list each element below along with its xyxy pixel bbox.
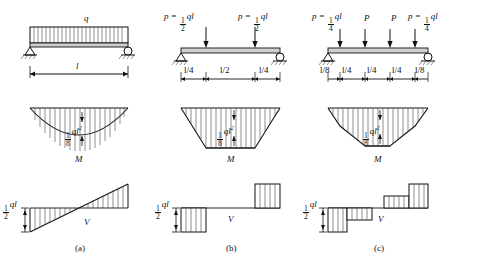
shear-peak-den-a: 2	[3, 212, 9, 221]
support-roller-a	[119, 47, 135, 59]
shear-svg-c	[308, 180, 478, 250]
shear-peak-den-c: 2	[303, 212, 309, 221]
diagram-column-c: p = 14ql P P p = 14ql	[308, 0, 478, 266]
support-pin-b	[172, 53, 188, 65]
shear-peak-label-c: 12ql	[302, 200, 317, 221]
shear-axis-label-c: V	[378, 215, 384, 224]
support-roller-c	[419, 53, 435, 65]
moment-peak-den-c: 8	[363, 139, 369, 148]
moment-peak-num-c: 1	[363, 132, 369, 140]
moment-peak-num-a: 1	[65, 132, 71, 140]
caption-a: (a)	[75, 243, 85, 253]
support-pin-a	[21, 47, 37, 59]
load-svg-a	[0, 0, 160, 90]
span-dimension-a	[30, 66, 128, 78]
moment-peak-unit-a: ql	[72, 126, 79, 136]
diagram-column-b: p = 12ql p = 12ql	[158, 0, 313, 266]
load-svg-c	[308, 0, 478, 90]
shear-peak-unit-a: ql	[10, 199, 17, 209]
dim-label-c-4: l/4	[392, 66, 402, 75]
load-arrow-b-1	[203, 27, 208, 48]
shear-peak-num-b: 1	[155, 205, 161, 213]
dim-label-c-1: l/8	[320, 66, 330, 75]
shear-peak-unit-c: ql	[310, 199, 317, 209]
dim-label-c-2: l/4	[342, 66, 352, 75]
load-arrow-c-3	[387, 29, 392, 48]
shear-peak-den-b: 2	[155, 212, 161, 221]
shear-peak-num-c: 1	[303, 205, 309, 213]
dim-label-b-1: l/4	[184, 66, 194, 75]
moment-peak-unit-b: ql	[224, 126, 231, 136]
caption-b: (b)	[226, 243, 237, 253]
load-arrow-b-2	[252, 27, 257, 48]
shear-dimension-b	[172, 208, 180, 232]
moment-svg-b	[158, 100, 313, 170]
shear-peak-label-a: 12ql	[2, 200, 17, 221]
moment-peak-unit-c: ql	[370, 126, 377, 136]
moment-peak-den-a: 8	[65, 139, 71, 148]
shear-peak-label-b: 12ql	[154, 200, 169, 221]
diagram-column-a: q	[0, 0, 160, 266]
shear-dimension-a	[21, 208, 29, 232]
moment-axis-label-c: M	[374, 155, 382, 164]
load-arrow-c-1	[337, 29, 342, 48]
load-arrow-c-2	[362, 29, 367, 48]
moment-peak-den-b: 8	[217, 139, 223, 148]
caption-c: (c)	[374, 243, 384, 253]
dim-label-c-5: l/8	[415, 66, 425, 75]
moment-axis-label-a: M	[75, 155, 83, 164]
moment-svg-c	[308, 100, 478, 170]
shear-axis-label-b: V	[228, 215, 234, 224]
moment-peak-exp-c: 2	[377, 125, 380, 131]
shear-peak-num-a: 1	[3, 205, 9, 213]
moment-peak-exp-a: 2	[79, 125, 82, 131]
span-label-a: l	[76, 62, 79, 71]
moment-peak-num-b: 1	[217, 132, 223, 140]
support-pin-c	[319, 53, 335, 65]
moment-axis-label-b: M	[227, 155, 235, 164]
moment-peak-label-a: 18ql2	[64, 125, 82, 148]
support-roller-b	[271, 53, 287, 65]
moment-peak-exp-b: 2	[231, 125, 234, 131]
shear-peak-unit-b: ql	[162, 199, 169, 209]
load-arrow-c-4	[412, 29, 417, 48]
dim-label-b-2: l/2	[220, 66, 230, 75]
shear-svg-b	[158, 180, 313, 250]
dim-label-c-3: l/4	[367, 66, 377, 75]
moment-peak-label-b: 18ql2	[216, 125, 234, 148]
shear-axis-label-a: V	[84, 218, 90, 227]
beam-diagram-figure: q	[0, 0, 478, 266]
shear-dimension-c	[319, 208, 327, 232]
dim-label-b-3: l/4	[259, 66, 269, 75]
load-svg-b	[158, 0, 313, 90]
moment-peak-label-c: 18ql2	[362, 125, 380, 148]
shear-svg-a	[0, 180, 160, 250]
